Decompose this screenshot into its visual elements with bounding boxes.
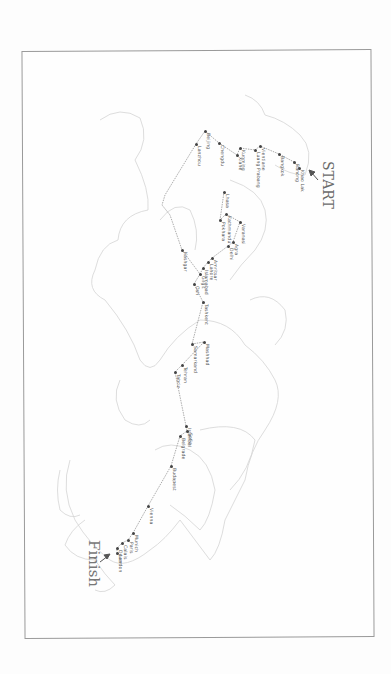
stop-label: Mashhad <box>205 344 210 365</box>
start-label: START <box>320 161 336 209</box>
stop-label: Vienna <box>149 508 154 524</box>
stop-label: Belgrade <box>181 438 186 459</box>
stop-label: Chengdu <box>220 145 225 166</box>
stop-label: Tehran <box>183 367 188 383</box>
stop-label: Pokhara <box>221 222 226 241</box>
stop-label: Delhi <box>229 248 234 260</box>
stop-label: Beijing <box>206 133 211 149</box>
stop-label: Varanasi <box>241 224 246 245</box>
stop-label: Agra <box>234 244 239 255</box>
stop-label: Paris <box>129 542 134 553</box>
stop-label: Lahore <box>209 264 214 280</box>
stop-label: Tabriz <box>176 374 181 388</box>
stop-label: Khao Lak <box>300 170 305 192</box>
stop-label: Sofia <box>188 433 193 445</box>
scanned-map-page: Khao LakRanongBangkokVientianeLuang Prab… <box>0 0 391 674</box>
stop-label: Munich <box>134 535 139 552</box>
stop-label: Osh <box>195 286 200 295</box>
stop-label: Luang Prabang <box>256 152 261 188</box>
land-outlines <box>58 95 310 592</box>
start-arrow-icon <box>309 170 318 180</box>
stop-label: Samarkand <box>193 346 198 373</box>
world-map-outline <box>0 0 391 674</box>
route-line <box>117 131 299 553</box>
stop-label: Tashkent <box>204 304 209 325</box>
stop-label: Ranong <box>295 164 300 182</box>
stop-label: Xiahe <box>238 157 243 170</box>
stop-label: Lhasa <box>225 194 230 208</box>
stop-label: Lanzhou <box>197 146 202 166</box>
stop-label: Bangkok <box>280 156 285 176</box>
stop-label: Gilgit <box>201 276 206 289</box>
stop-label: London <box>118 555 123 572</box>
stop-label: Budapest <box>172 468 177 491</box>
stop-label: Kathmandu <box>227 216 232 243</box>
stop-label: Kashgar <box>183 252 188 271</box>
stop-label: Vientiane <box>261 148 266 171</box>
finish-label: Finish <box>85 540 103 587</box>
stop-label: Calais <box>123 545 128 559</box>
